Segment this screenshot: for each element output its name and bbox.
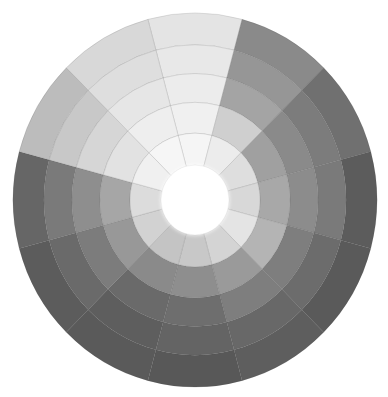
wheel-cell: [72, 167, 103, 232]
white-core: [161, 165, 229, 235]
wheel-cell: [170, 102, 219, 135]
wheel-cell: [100, 175, 132, 226]
wheel-cell: [156, 322, 234, 355]
wheel-cell: [163, 74, 227, 106]
gray-value-wheel: [0, 0, 388, 397]
wheel-cell: [163, 294, 227, 326]
wheel-cell: [258, 175, 290, 226]
wheel-cell: [287, 167, 318, 232]
wheel-cell: [44, 160, 76, 240]
wheel-cell: [170, 265, 219, 298]
wheel-cell: [156, 45, 234, 78]
wheel-cell: [314, 160, 346, 240]
